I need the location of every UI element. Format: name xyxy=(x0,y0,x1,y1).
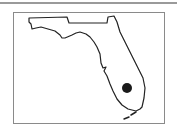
florida-map xyxy=(0,0,177,140)
florida-outline xyxy=(29,16,145,111)
florida-keys xyxy=(124,112,136,119)
location-marker-icon[interactable] xyxy=(122,83,132,93)
